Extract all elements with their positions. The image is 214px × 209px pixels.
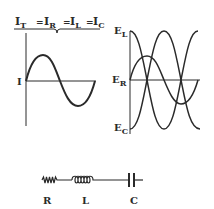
inductor-symbol xyxy=(72,176,128,183)
title-it: IT xyxy=(15,15,26,30)
capacitor-label: C xyxy=(130,195,138,206)
title-il: IL xyxy=(70,15,81,30)
label-ec: EC xyxy=(114,122,128,136)
series-circuit: R L C xyxy=(42,173,143,206)
current-axis-label: I xyxy=(17,76,22,87)
resistor-label: R xyxy=(43,195,52,206)
inductor-label: L xyxy=(82,195,89,206)
title-ir: IR xyxy=(44,15,56,30)
title-brace xyxy=(14,29,100,33)
current-equality-title: IT = IR = IL = IC xyxy=(14,15,105,33)
resistor-symbol xyxy=(42,177,72,183)
title-eq-1: = xyxy=(36,17,44,27)
current-graph: I xyxy=(17,33,96,126)
series-rlc-diagram: IT = IR = IL = IC I EL ER EC xyxy=(0,0,214,209)
title-ic: IC xyxy=(93,15,105,30)
label-el: EL xyxy=(114,25,128,39)
label-er: ER xyxy=(112,74,127,88)
voltage-graph: EL ER EC xyxy=(112,25,200,136)
